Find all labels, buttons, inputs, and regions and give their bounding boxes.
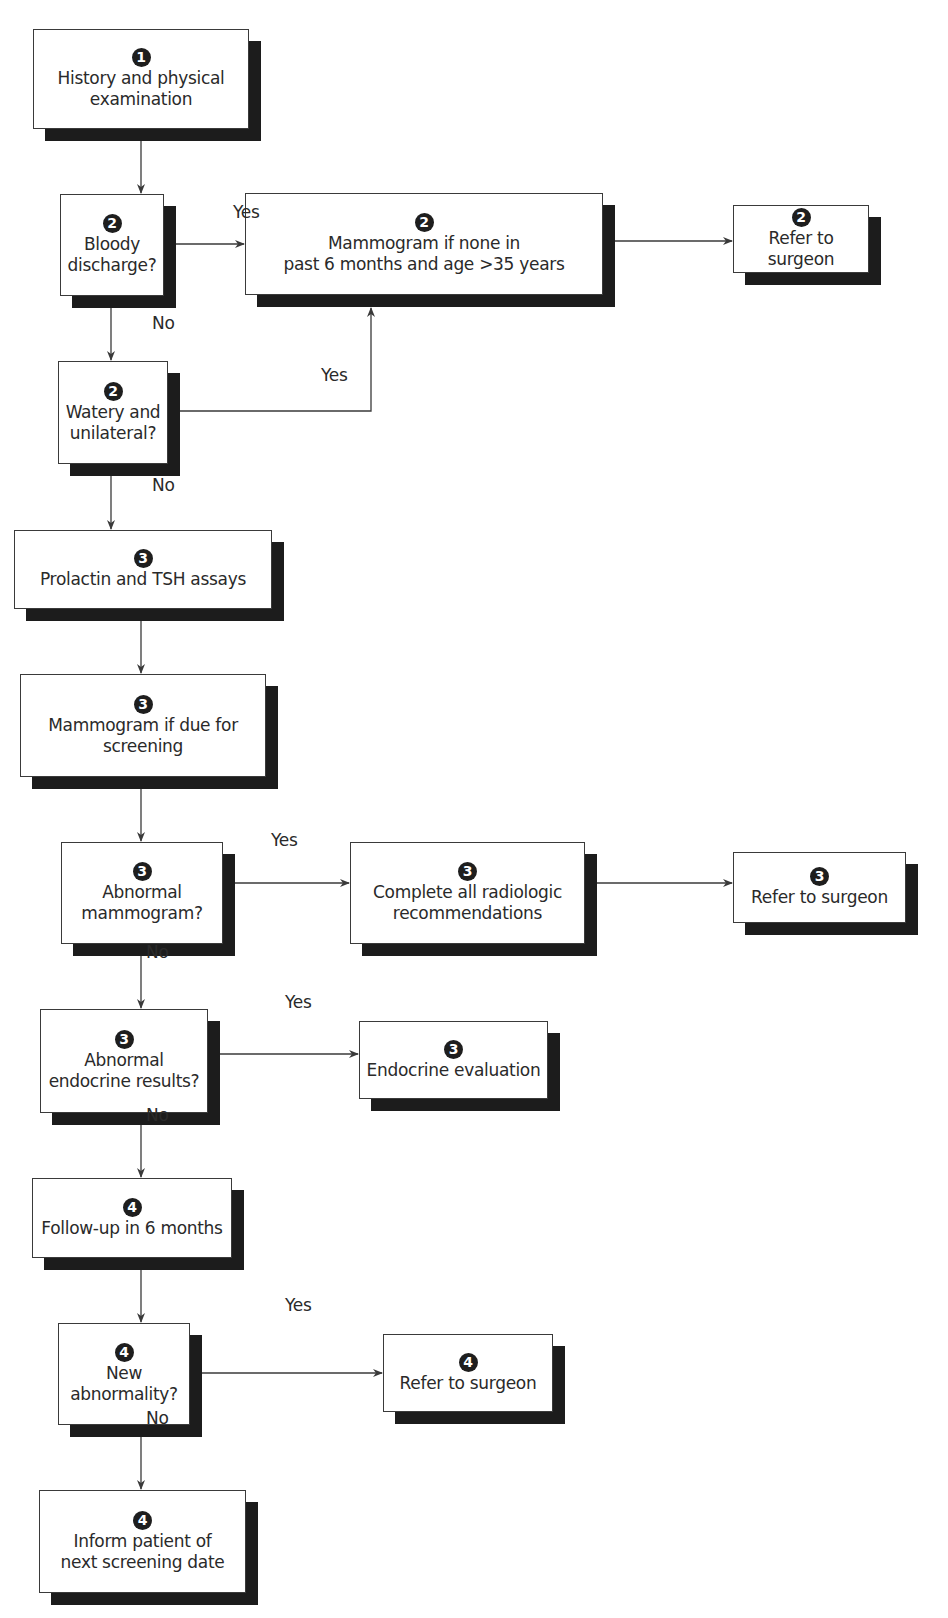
node-box: 4Follow-up in 6 months <box>32 1178 232 1258</box>
node-box: 3Mammogram if due for screening <box>20 674 266 777</box>
step-number-badge-icon: 4 <box>133 1511 152 1530</box>
node-label: Refer to surgeon <box>734 228 868 270</box>
flow-node-decision: 2Watery and unilateral? <box>58 361 168 464</box>
node-box: 3Prolactin and TSH assays <box>14 530 272 609</box>
flow-node-process: 3Mammogram if due for screening <box>20 674 266 777</box>
step-number-badge-icon: 3 <box>444 1040 463 1059</box>
node-box: 3Abnormal mammogram? <box>61 842 223 944</box>
step-number-badge-icon: 3 <box>134 695 153 714</box>
edge-label-yes: Yes <box>285 1295 312 1315</box>
node-box: 2Refer to surgeon <box>733 205 869 273</box>
edge-label-no: No <box>146 1408 169 1428</box>
step-number-badge-icon: 2 <box>103 214 122 233</box>
node-box: 4Refer to surgeon <box>383 1334 553 1412</box>
step-number-badge-icon: 2 <box>104 382 123 401</box>
node-box: 2Bloody discharge? <box>60 194 164 296</box>
node-label: Prolactin and TSH assays <box>40 569 246 590</box>
flow-node-process: 1History and physical examination <box>33 29 249 129</box>
edge-label-yes: Yes <box>321 365 348 385</box>
step-number-badge-icon: 3 <box>115 1030 134 1049</box>
node-box: 4Inform patient of next screening date <box>39 1490 246 1593</box>
edge-watery-yes-to-mammogram <box>180 308 371 411</box>
node-box: 3Refer to surgeon <box>733 852 906 923</box>
flow-node-terminal: 3Endocrine evaluation <box>359 1021 548 1099</box>
node-label: Bloody discharge? <box>68 234 157 276</box>
node-label: Endocrine evaluation <box>367 1060 541 1081</box>
node-label: Refer to surgeon <box>400 1373 537 1394</box>
node-label: Refer to surgeon <box>751 887 888 908</box>
edge-label-yes: Yes <box>271 830 298 850</box>
flow-node-terminal: 3Refer to surgeon <box>733 852 906 923</box>
step-number-badge-icon: 4 <box>459 1353 478 1372</box>
step-number-badge-icon: 2 <box>792 208 811 227</box>
flow-node-process: 4Follow-up in 6 months <box>32 1178 232 1258</box>
node-label: Inform patient of next screening date <box>61 1531 225 1573</box>
node-label: History and physical examination <box>58 68 225 110</box>
step-number-badge-icon: 1 <box>132 48 151 67</box>
node-box: 3Abnormal endocrine results? <box>40 1009 208 1113</box>
node-box: 1History and physical examination <box>33 29 249 129</box>
node-label: Mammogram if none in past 6 months and a… <box>283 233 564 275</box>
edge-label-no: No <box>152 475 175 495</box>
step-number-badge-icon: 2 <box>415 213 434 232</box>
flow-node-terminal: 4Inform patient of next screening date <box>39 1490 246 1593</box>
node-box: 4New abnormality? <box>58 1323 190 1425</box>
node-label: Follow-up in 6 months <box>41 1218 222 1239</box>
flow-node-decision: 3Abnormal mammogram? <box>61 842 223 944</box>
edge-label-yes: Yes <box>285 992 312 1012</box>
flowchart-canvas: 1History and physical examination2Bloody… <box>0 0 948 1618</box>
node-label: Mammogram if due for screening <box>48 715 238 757</box>
node-label: Watery and unilateral? <box>66 402 161 444</box>
node-label: Abnormal mammogram? <box>81 882 202 924</box>
edge-label-yes: Yes <box>233 202 260 222</box>
flow-node-terminal: 4Refer to surgeon <box>383 1334 553 1412</box>
node-box: 3Complete all radiologic recommendations <box>350 842 585 944</box>
node-box: 3Endocrine evaluation <box>359 1021 548 1099</box>
node-label: New abnormality? <box>70 1363 178 1405</box>
step-number-badge-icon: 4 <box>115 1343 134 1362</box>
flow-node-process: 3Complete all radiologic recommendations <box>350 842 585 944</box>
flow-node-process: 2Mammogram if none in past 6 months and … <box>245 193 603 295</box>
node-box: 2Watery and unilateral? <box>58 361 168 464</box>
node-label: Complete all radiologic recommendations <box>373 882 562 924</box>
edge-label-no: No <box>146 942 169 962</box>
flow-node-decision: 2Bloody discharge? <box>60 194 164 296</box>
step-number-badge-icon: 3 <box>458 862 477 881</box>
flow-node-process: 3Prolactin and TSH assays <box>14 530 272 609</box>
flow-node-decision: 3Abnormal endocrine results? <box>40 1009 208 1113</box>
node-label: Abnormal endocrine results? <box>49 1050 200 1092</box>
edge-label-no: No <box>152 313 175 333</box>
node-box: 2Mammogram if none in past 6 months and … <box>245 193 603 295</box>
step-number-badge-icon: 3 <box>810 867 829 886</box>
step-number-badge-icon: 3 <box>134 549 153 568</box>
step-number-badge-icon: 4 <box>123 1198 142 1217</box>
flow-node-terminal: 2Refer to surgeon <box>733 205 869 273</box>
step-number-badge-icon: 3 <box>133 862 152 881</box>
edge-label-no: No <box>146 1105 169 1125</box>
flow-node-decision: 4New abnormality? <box>58 1323 190 1425</box>
